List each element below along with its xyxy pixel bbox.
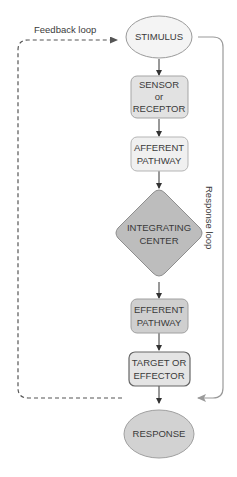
node-sensor-line1: SENSOR: [139, 79, 179, 90]
node-target-effector: TARGET OR EFFECTOR: [129, 352, 190, 386]
node-sensor-line3: RECEPTOR: [133, 103, 186, 114]
node-afferent-pathway: AFFERENT PATHWAY: [131, 137, 188, 171]
node-sensor-line2: or: [155, 91, 163, 102]
feedback-loop-label: Feedback loop: [34, 24, 96, 35]
node-sensor: SENSOR or RECEPTOR: [131, 76, 188, 118]
node-target-line1: TARGET OR: [132, 357, 187, 368]
node-stimulus-label: STIMULUS: [135, 31, 183, 42]
node-response-label: RESPONSE: [133, 428, 186, 439]
node-afferent-line1: AFFERENT: [134, 142, 184, 153]
node-efferent-line2: PATHWAY: [137, 317, 182, 328]
node-integrating-line1: INTEGRATING: [127, 222, 191, 233]
node-efferent-line1: EFFERENT: [134, 304, 184, 315]
node-response: RESPONSE: [124, 410, 194, 458]
node-integrating-line2: CENTER: [139, 235, 178, 246]
node-stimulus: STIMULUS: [126, 16, 192, 58]
node-afferent-line2: PATHWAY: [137, 155, 182, 166]
response-loop-label: Response loop: [204, 186, 215, 249]
reflex-pathway-diagram: Feedback loop Response loop STIMULUS SEN…: [0, 0, 237, 477]
node-integrating-center: INTEGRATING CENTER: [116, 190, 202, 276]
node-efferent-pathway: EFFERENT PATHWAY: [131, 299, 188, 333]
node-target-line2: EFFECTOR: [133, 370, 184, 381]
feedback-loop-edge: [18, 40, 122, 398]
